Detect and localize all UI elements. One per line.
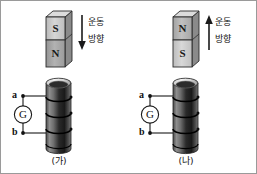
terminal-ga-a-label: a [12, 90, 17, 100]
solenoid-na [173, 78, 200, 153]
panel-ga-graphics [1, 1, 129, 173]
galvanometer-na-label: G [140, 109, 160, 120]
panel-ga: S N 운동 방향 a b G (가) [1, 1, 129, 173]
motion-arrow-na-graphic [205, 15, 213, 50]
motion-label-ga-line2: 방향 [88, 34, 104, 45]
terminal-ga-b-label: b [12, 127, 18, 137]
motion-label-na-line2: 방향 [215, 34, 231, 45]
figure-container: S N 운동 방향 a b G (가) [0, 0, 257, 174]
caption-ga: (가) [29, 157, 89, 166]
galvanometer-ga-label: G [13, 109, 33, 120]
panel-na: N S 운동 방향 a b G (나) [128, 1, 256, 173]
magnet-ga-bottom-pole-label: N [46, 48, 65, 59]
caption-na: (나) [156, 157, 216, 166]
motion-label-na-line1: 운동 [215, 17, 231, 28]
magnet-na-bottom-pole-label: S [173, 48, 192, 59]
terminal-na-b-label: b [139, 127, 145, 137]
panel-na-graphics [128, 1, 256, 173]
magnet-na-top-pole-label: N [173, 23, 192, 34]
solenoid-ga [46, 78, 73, 153]
magnet-ga-top-pole-label: S [46, 23, 65, 34]
motion-label-ga-line1: 운동 [88, 17, 104, 28]
terminal-na-a-label: a [139, 90, 144, 100]
motion-arrow-ga-graphic [78, 15, 86, 50]
